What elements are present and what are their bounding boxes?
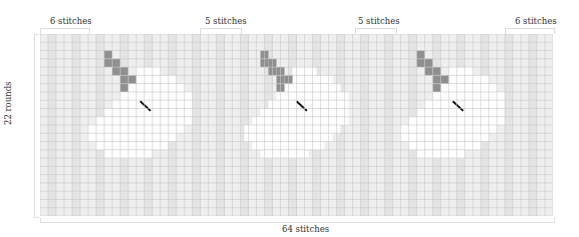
columns-label: 64 stitches bbox=[282, 224, 329, 234]
stitch-bracket-label: 6 stitches bbox=[50, 16, 92, 26]
ear-cell bbox=[417, 51, 425, 59]
motif-white-cell bbox=[88, 133, 176, 141]
stitch-grid bbox=[40, 34, 553, 216]
rows-label: 22 rounds bbox=[3, 82, 13, 125]
motif-white-cell bbox=[120, 92, 192, 100]
ear-cell bbox=[433, 75, 441, 83]
motif-white-cell bbox=[441, 84, 497, 92]
motif-white-cell bbox=[136, 67, 160, 75]
columns-bracket bbox=[40, 218, 555, 223]
motif-white-cell bbox=[244, 125, 340, 133]
ear-cell bbox=[104, 59, 112, 67]
stitch-bracket-label: 5 stitches bbox=[358, 16, 400, 26]
motif-white-cell bbox=[401, 133, 489, 141]
ear-cell bbox=[120, 84, 128, 92]
ear-cell bbox=[128, 75, 136, 83]
motif-white-cell bbox=[449, 75, 489, 83]
ear-cell bbox=[112, 59, 120, 67]
ear-cell bbox=[112, 67, 120, 75]
grid-cells bbox=[40, 34, 553, 216]
motif-white-cell bbox=[409, 142, 481, 150]
motif-white-cell bbox=[96, 142, 168, 150]
ear-cell bbox=[120, 67, 128, 75]
motif-white-cell bbox=[136, 75, 176, 83]
stitch-bracket-label: 5 stitches bbox=[205, 16, 247, 26]
motif-white-cell bbox=[449, 67, 473, 75]
motif-white-cell bbox=[252, 117, 348, 125]
motif-white-cell bbox=[433, 92, 505, 100]
stitch-bracket-label: 6 stitches bbox=[515, 16, 557, 26]
ear-cell bbox=[104, 51, 112, 59]
ear-cell bbox=[441, 75, 449, 83]
rows-bracket bbox=[34, 34, 39, 218]
ear-cell bbox=[417, 59, 425, 67]
ear-cell bbox=[425, 59, 433, 67]
ear-cell bbox=[425, 67, 433, 75]
motif-white-cell bbox=[128, 84, 184, 92]
ear-cell bbox=[433, 67, 441, 75]
ear-cell bbox=[433, 84, 441, 92]
ear-cell bbox=[120, 75, 128, 83]
motif-white-cell bbox=[260, 150, 308, 158]
